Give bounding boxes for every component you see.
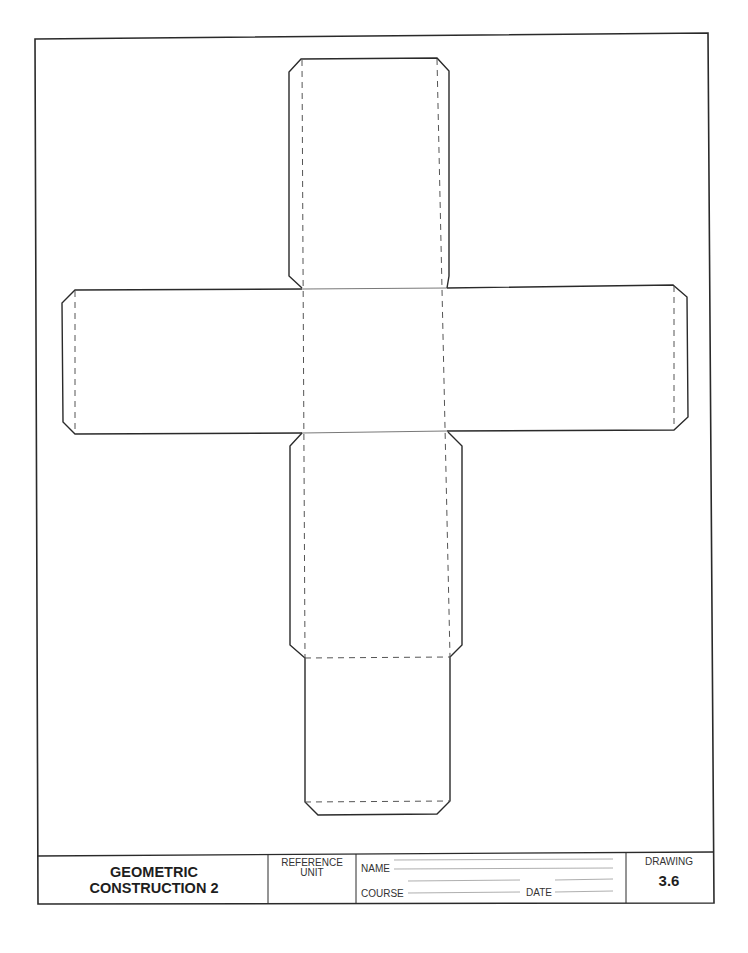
fold-line-lower-horizontal bbox=[305, 657, 450, 658]
top-face-outline bbox=[289, 58, 449, 288]
drawing-number-label: DRAWING bbox=[626, 856, 712, 867]
drawing-title-line2: CONSTRUCTION 2 bbox=[40, 880, 268, 896]
drawing-number: 3.6 bbox=[626, 872, 712, 889]
name-line-upper bbox=[394, 859, 613, 860]
fold-line-left-vertical bbox=[302, 60, 305, 658]
date-line bbox=[555, 891, 613, 892]
course-label: COURSE bbox=[361, 888, 404, 899]
fold-line-right-vertical bbox=[437, 59, 450, 657]
name-line bbox=[394, 868, 613, 869]
left-arm-top-edge bbox=[62, 289, 302, 434]
reference-label-line2: UNIT bbox=[268, 868, 356, 878]
cube-net-drawing bbox=[0, 0, 748, 953]
fold-line-bottom-tab bbox=[305, 801, 450, 802]
right-arm-outline bbox=[447, 285, 688, 431]
course-line bbox=[408, 892, 520, 893]
center-face-top-fold bbox=[302, 288, 447, 289]
drawing-title: GEOMETRIC CONSTRUCTION 2 bbox=[40, 864, 268, 896]
name-label: NAME bbox=[361, 863, 390, 874]
drawing-title-line1: GEOMETRIC bbox=[40, 864, 268, 880]
course-line-upper bbox=[408, 880, 520, 881]
date-line-upper bbox=[555, 879, 613, 880]
date-label: DATE bbox=[526, 887, 552, 898]
sheet-border bbox=[35, 33, 714, 904]
reference-unit-label: REFERENCE UNIT bbox=[268, 858, 356, 878]
drawing-sheet: GEOMETRIC CONSTRUCTION 2 REFERENCE UNIT … bbox=[0, 0, 748, 953]
center-face-bottom-fold bbox=[302, 431, 447, 433]
lower-face-outline bbox=[290, 432, 462, 815]
title-block-top-line bbox=[37, 852, 713, 856]
